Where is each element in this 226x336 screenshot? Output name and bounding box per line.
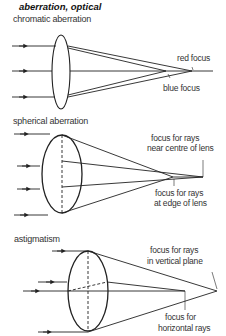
optics-diagram — [0, 0, 226, 336]
blue-focus-label: blue focus — [163, 83, 200, 93]
astigmatism-heading: astigmatism — [14, 234, 60, 244]
centre-focus-label-2: near centre of lens — [147, 143, 214, 153]
red-focus-label: red focus — [177, 53, 210, 63]
spherical-heading: spherical aberration — [13, 116, 88, 126]
edge-focus-label-1: focus for rays — [155, 188, 203, 198]
edge-focus-label-2: at edge of lens — [154, 198, 207, 208]
vertical-focus-label-1: focus for rays — [150, 245, 198, 255]
chromatic-heading: chromatic aberration — [13, 14, 91, 24]
centre-focus-label-1: focus for rays — [151, 133, 199, 143]
vertical-focus-label-2: in vertical plane — [147, 256, 203, 266]
chromatic-diagram — [12, 35, 213, 109]
horizontal-focus-label-1: focus for — [165, 312, 196, 322]
horizontal-focus-label-2: horizontal rays — [158, 323, 210, 333]
